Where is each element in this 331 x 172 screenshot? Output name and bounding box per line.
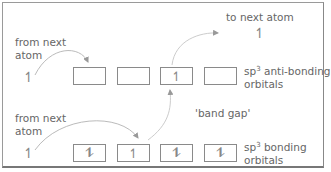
antibonding-orbital-box: ↿	[160, 67, 193, 85]
antibonding-label: sp3 anti-bonding orbitals	[244, 65, 331, 91]
spin-up-arrow-icon: ↿	[23, 69, 35, 85]
bonding-orbital-box: ⥮	[160, 144, 193, 162]
label-line: from next	[15, 36, 66, 49]
label-text: anti-bonding	[261, 65, 331, 77]
to-next-atom-label: to next atom	[226, 11, 294, 24]
bonding-orbital-box: ⥮	[73, 144, 106, 162]
antibonding-orbital-box	[204, 67, 237, 85]
label-line: atom	[15, 49, 66, 62]
label-line: atom	[15, 125, 66, 138]
from-next-atom-top-label: from next atom	[15, 36, 66, 62]
label-text: sp	[244, 141, 256, 153]
from-next-atom-bottom-label: from next atom	[15, 112, 66, 138]
bonding-label: sp3 bonding orbitals	[244, 141, 307, 167]
spin-up-arrow-icon: ↿	[23, 145, 35, 161]
label-text: sp	[244, 65, 256, 77]
bonding-orbital-box: ↿	[117, 144, 150, 162]
antibonding-orbital-box	[117, 67, 150, 85]
bonding-orbital-box: ⥮	[204, 144, 237, 162]
label-text: orbitals	[244, 78, 331, 91]
label-line: from next	[15, 112, 66, 125]
label-text: bonding	[261, 141, 307, 153]
label-text: orbitals	[244, 154, 307, 167]
spin-up-arrow-icon: ↿	[254, 25, 266, 41]
antibonding-orbital-box	[73, 67, 106, 85]
band-gap-label: 'band gap'	[195, 107, 250, 120]
